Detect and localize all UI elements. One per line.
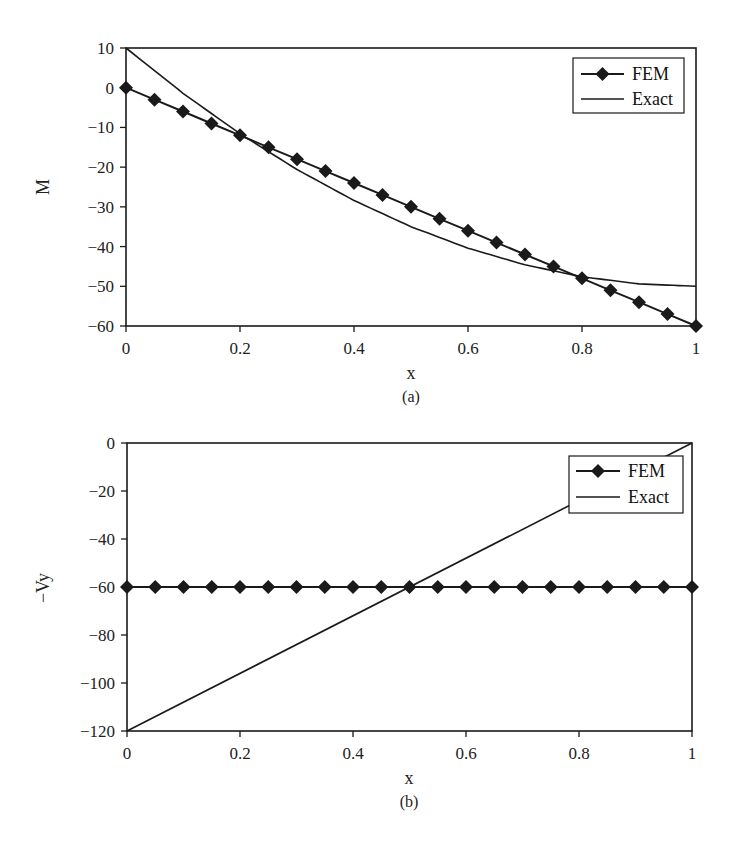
legend-label-exact-a: Exact (632, 89, 673, 109)
x-tick-label: 1 (688, 744, 697, 763)
diamond-marker-icon (461, 224, 475, 238)
diamond-marker-icon (374, 580, 388, 594)
diamond-marker-icon (604, 283, 618, 297)
legend-label-fem-b: FEM (628, 461, 665, 481)
panel-caption-b: (b) (400, 793, 419, 811)
diamond-marker-icon (346, 580, 360, 594)
diamond-marker-icon (575, 271, 589, 285)
panel-caption-a: (a) (402, 388, 420, 406)
diamond-marker-icon (600, 580, 614, 594)
y-tick-label: −120 (80, 722, 115, 741)
y-axis-label-b: −Vy (33, 573, 53, 603)
diamond-marker-icon (431, 580, 445, 594)
y-tick-label: −60 (88, 578, 115, 597)
diamond-marker-icon (490, 236, 504, 250)
y-tick-label: −80 (88, 626, 115, 645)
chart-figure: 100−10−20−30−40−50−60 00.20.40.60.81 M x… (0, 0, 734, 845)
x-tick-label: 0.2 (229, 339, 250, 358)
diamond-marker-icon (404, 200, 418, 214)
diamond-marker-icon (518, 248, 532, 262)
y-tick-label: 10 (97, 39, 114, 58)
x-axis-a: 00.20.40.60.81 (122, 326, 701, 358)
x-tick-label: 0.4 (343, 339, 365, 358)
y-tick-label: −60 (87, 317, 114, 336)
y-axis-label-a: M (33, 179, 53, 195)
chart-panel-b: 0−20−40−60−80−100−120 00.20.40.60.81 −Vy… (33, 434, 699, 811)
diamond-marker-icon (629, 580, 643, 594)
chart-panel-a: 100−10−20−30−40−50−60 00.20.40.60.81 M x… (33, 39, 703, 406)
y-axis-a: 100−10−20−30−40−50−60 (87, 39, 126, 336)
diamond-marker-icon (632, 295, 646, 309)
x-tick-label: 0.8 (568, 744, 589, 763)
diamond-marker-icon (233, 580, 247, 594)
diamond-marker-icon (319, 164, 333, 178)
x-tick-label: 0 (122, 339, 131, 358)
x-tick-label: 0.8 (571, 339, 592, 358)
diamond-marker-icon (176, 105, 190, 119)
x-tick-label: 0.2 (229, 744, 250, 763)
y-tick-label: −10 (87, 118, 114, 137)
x-tick-label: 0.6 (455, 744, 476, 763)
y-tick-label: −40 (87, 238, 114, 257)
y-tick-label: 0 (107, 434, 116, 453)
y-tick-label: −20 (88, 482, 115, 501)
diamond-marker-icon (544, 580, 558, 594)
y-axis-b: 0−20−40−60−80−100−120 (80, 434, 127, 741)
diamond-marker-icon (205, 116, 219, 130)
legend-a: FEM Exact (573, 58, 684, 113)
x-axis-label-a: x (407, 363, 416, 383)
diamond-marker-icon (661, 307, 675, 321)
diamond-marker-icon (148, 580, 162, 594)
x-axis-b: 00.20.40.60.81 (123, 731, 697, 763)
diamond-marker-icon (148, 93, 162, 107)
y-tick-label: −30 (87, 198, 114, 217)
diamond-marker-icon (177, 580, 191, 594)
x-axis-label-b: x (405, 768, 414, 788)
diamond-marker-icon (318, 580, 332, 594)
legend-label-exact-b: Exact (628, 487, 669, 507)
diamond-marker-icon (290, 152, 304, 166)
x-tick-label: 1 (692, 339, 701, 358)
legend-b: FEM Exact (569, 456, 683, 513)
diamond-marker-icon (347, 176, 361, 190)
diamond-marker-icon (290, 580, 304, 594)
x-tick-label: 0.6 (457, 339, 478, 358)
diamond-marker-icon (516, 580, 530, 594)
y-tick-label: −40 (88, 530, 115, 549)
x-tick-label: 0.4 (342, 744, 364, 763)
diamond-marker-icon (459, 580, 473, 594)
legend-label-fem-a: FEM (632, 64, 669, 84)
diamond-marker-icon (487, 580, 501, 594)
y-tick-label: −50 (87, 277, 114, 296)
diamond-marker-icon (205, 580, 219, 594)
diamond-marker-icon (572, 580, 586, 594)
diamond-marker-icon (433, 212, 447, 226)
diamond-marker-icon (261, 580, 275, 594)
x-tick-label: 0 (123, 744, 132, 763)
diamond-marker-icon (657, 580, 671, 594)
diamond-marker-icon (376, 188, 390, 202)
y-tick-label: −100 (80, 674, 115, 693)
y-tick-label: 0 (106, 79, 115, 98)
y-tick-label: −20 (87, 158, 114, 177)
